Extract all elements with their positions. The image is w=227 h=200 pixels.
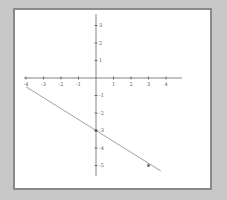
x-tick-label: 2 (129, 81, 132, 87)
data-point (147, 164, 149, 166)
x-tick-label: 3 (147, 81, 150, 87)
y-tick-label: -2 (99, 110, 104, 116)
x-tick-label: -2 (59, 81, 64, 87)
x-tick-label: 1 (112, 81, 115, 87)
coordinate-plane: -4-3-2-11234321-1-2-3-4-5 (0, 0, 227, 200)
y-tick-label: -4 (99, 145, 104, 151)
plot-line (26, 87, 161, 171)
y-tick-label: -1 (99, 92, 104, 98)
y-tick-label: 2 (99, 40, 102, 46)
y-tick-label: 1 (99, 57, 102, 63)
x-tick-label: 4 (164, 81, 167, 87)
data-point (95, 129, 97, 131)
x-tick-label: -1 (76, 81, 81, 87)
y-tick-label: -5 (99, 162, 104, 168)
x-tick-label: -4 (24, 81, 29, 87)
y-tick-label: 3 (99, 22, 102, 28)
x-tick-label: -3 (41, 81, 46, 87)
